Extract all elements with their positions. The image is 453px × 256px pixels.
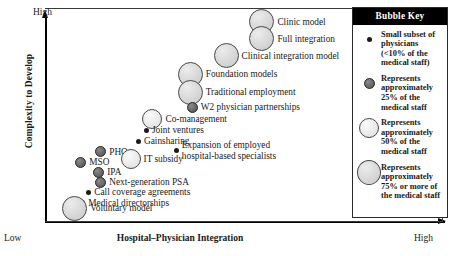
bubble-point: [174, 148, 179, 153]
bubble-label: Call coverage agreements: [94, 187, 190, 198]
bubble-label: Traditional employment: [206, 87, 296, 98]
bubble-chart: Complexity to Develop Hospital–Physician…: [0, 0, 453, 256]
legend-title: Bubble Key: [353, 8, 447, 25]
bubble-label: Joint ventures: [152, 125, 204, 136]
legend-row: Small subset of physicians (<10% of the …: [357, 29, 443, 68]
y-axis-line: [45, 18, 47, 223]
bubble-label: Clinic model: [277, 17, 325, 28]
legend-bubble-icon: [357, 162, 381, 184]
bubble-key-legend: Bubble Key Small subset of physicians (<…: [352, 7, 448, 218]
bubble-label: IT subsidy: [144, 154, 183, 165]
bubble-point: [249, 26, 274, 51]
bubble-label: IPA: [107, 167, 121, 178]
legend-entry-text: Represents approximately 25% of the medi…: [381, 73, 443, 112]
bubble-label: Clinical integration model: [242, 51, 340, 62]
legend-bubble-icon: [357, 117, 381, 139]
bubble-point: [187, 102, 198, 113]
x-axis-low-label: Low: [4, 233, 21, 243]
legend-bubble-icon: [357, 29, 381, 51]
legend-entries: Small subset of physicians (<10% of the …: [353, 25, 447, 202]
y-axis-title: Complexity to Develop: [24, 26, 34, 176]
bubble-point: [95, 146, 106, 157]
bubble-label: Foundation models: [206, 69, 278, 80]
bubble-label: Expansion of employed hospital-based spe…: [182, 140, 276, 161]
legend-row: Represents approximately 25% of the medi…: [357, 73, 443, 112]
bubble-point: [136, 139, 141, 144]
bubble-label: W2 physician partnerships: [201, 102, 300, 113]
bubble-point: [121, 149, 141, 169]
legend-bubble-icon: [357, 73, 381, 95]
bubble-label: Voluntary model: [90, 203, 152, 214]
x-axis-arrow-icon: [438, 218, 446, 224]
legend-entry-text: Small subset of physicians (<10% of the …: [381, 29, 443, 68]
bubble-point: [75, 157, 86, 168]
x-axis-title: Hospital–Physician Integration: [60, 233, 300, 243]
y-axis-high-label: High: [33, 7, 52, 17]
x-axis-high-label: High: [414, 233, 433, 243]
bubble-point: [62, 196, 87, 221]
bubble-point: [93, 167, 104, 178]
bubble-point: [214, 43, 239, 68]
x-axis-line: [45, 221, 445, 223]
legend-row: Represents approximately 50% of the medi…: [357, 117, 443, 156]
bubble-point: [144, 128, 149, 133]
bubble-point: [86, 190, 91, 195]
bubble-label: Full integration: [277, 34, 335, 45]
legend-entry-text: Represents approximately 50% of the medi…: [381, 117, 443, 156]
legend-entry-text: Represents approximately 75% or more of …: [381, 162, 443, 201]
bubble-point: [178, 80, 203, 105]
bubble-label: Co-management: [165, 114, 226, 125]
legend-row: Represents approximately 75% or more of …: [357, 162, 443, 201]
